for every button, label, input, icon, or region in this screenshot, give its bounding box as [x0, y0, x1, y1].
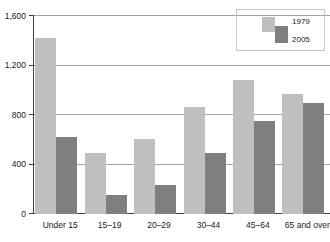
y-axis-tick-labels: 1,600 1,200 800 400 0: [5, 11, 27, 219]
bar-1979-20–29: [134, 139, 155, 213]
legend-swatch-1979: [262, 17, 275, 32]
x-tick-label-3: 30–44: [197, 220, 221, 230]
bar-chart-figure: 1,600 1,200 800 400 0 Under 1515–1920–29…: [0, 0, 330, 242]
legend-label-1979: 1979: [292, 17, 310, 26]
legend-label-2005: 2005: [292, 35, 310, 44]
bar-1979-15–19: [85, 153, 106, 214]
bar-2005-65-and-over: [303, 103, 324, 214]
bars-layer: [35, 38, 324, 214]
x-tick-label-0: Under 15: [43, 220, 78, 230]
bar-1979-30–44: [184, 107, 205, 214]
bar-1979-45–64: [233, 80, 254, 214]
y-tick-label-1600: 1,600: [5, 11, 27, 21]
bar-2005-30–44: [205, 153, 226, 214]
bar-2005-15–19: [106, 195, 127, 214]
y-tick-marks: [29, 16, 33, 214]
chart-canvas: 1,600 1,200 800 400 0 Under 1515–1920–29…: [0, 0, 330, 242]
bar-1979-65-and-over: [282, 94, 303, 213]
x-tick-label-1: 15–19: [98, 220, 122, 230]
x-tick-label-4: 45–64: [246, 220, 270, 230]
bar-2005-under-15: [56, 137, 77, 214]
legend-swatch-2005: [275, 26, 288, 43]
bar-2005-20–29: [155, 185, 176, 214]
x-tick-label-2: 20–29: [147, 220, 171, 230]
x-tick-label-5: 65 and over: [285, 220, 330, 230]
x-axis-tick-labels: Under 1515–1920–2930–4445–6465 and over: [43, 220, 330, 230]
y-tick-label-0: 0: [21, 209, 26, 219]
bar-2005-45–64: [254, 121, 275, 214]
y-tick-label-800: 800: [12, 110, 26, 120]
bar-1979-under-15: [35, 38, 56, 214]
y-tick-label-1200: 1,200: [5, 60, 27, 70]
y-tick-label-400: 400: [12, 159, 26, 169]
